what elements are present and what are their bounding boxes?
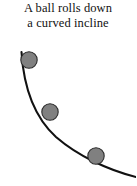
ball-position-1 [21,52,37,68]
ball-position-2 [42,104,58,120]
ball-position-3 [88,148,104,164]
curved-incline-path [22,52,137,177]
curved-incline-diagram [0,0,136,186]
physics-illustration-figure: A ball rolls down a curved incline [0,0,136,186]
